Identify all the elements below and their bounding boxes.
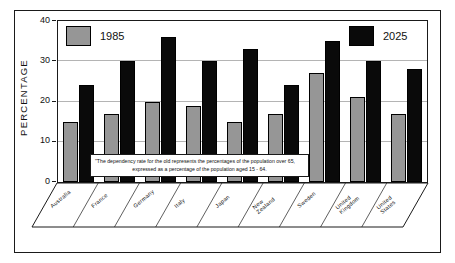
legend-label-1985: 1985 bbox=[100, 30, 124, 42]
y-tick-mark-40 bbox=[52, 20, 56, 21]
legend-entry-1985: 1985 bbox=[66, 26, 124, 46]
bar-united-states-1985 bbox=[391, 114, 407, 182]
legend-label-2025: 2025 bbox=[383, 30, 407, 42]
y-tick-label-20: 20 bbox=[24, 96, 50, 105]
x-axis-base: AustraliaFranceGermanyItalyJapanNewZeala… bbox=[14, 183, 441, 245]
footnote-line-1: "The dependency rate for the old represe… bbox=[95, 158, 304, 166]
chart-figure: PERCENTAGE 010203040 1985 2025 "The depe… bbox=[0, 0, 455, 263]
footnote-box: "The dependency rate for the old represe… bbox=[90, 154, 309, 177]
bar-united-kingdom-1985 bbox=[350, 97, 366, 182]
legend-entry-2025: 2025 bbox=[349, 26, 407, 46]
black-swatch-icon bbox=[349, 26, 374, 46]
bar-united-states-2025 bbox=[407, 69, 423, 182]
bar-sweden-1985 bbox=[309, 73, 325, 182]
y-tick-label-10: 10 bbox=[24, 136, 50, 145]
bar-australia-1985 bbox=[63, 122, 79, 182]
bar-united-kingdom-2025 bbox=[366, 61, 382, 182]
y-tick-label-40: 40 bbox=[24, 16, 50, 25]
y-tick-label-30: 30 bbox=[24, 56, 50, 65]
y-tick-mark-30 bbox=[52, 60, 56, 61]
y-tick-mark-10 bbox=[52, 141, 56, 142]
footnote-line-2: expressed as a percentage of the populat… bbox=[95, 166, 304, 174]
bar-sweden-2025 bbox=[325, 41, 341, 182]
x-axis-base-shape bbox=[14, 183, 441, 245]
y-tick-mark-0 bbox=[52, 181, 56, 182]
y-tick-mark-20 bbox=[52, 101, 56, 102]
gray-swatch-icon bbox=[66, 26, 91, 46]
